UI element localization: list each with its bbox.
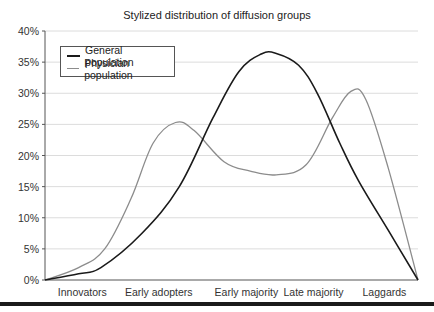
x-tick-label: Innovators (58, 286, 107, 298)
x-tick-label: Early adopters (125, 286, 193, 298)
x-tick-label: Late majority (284, 286, 345, 298)
y-tick-label: 15% (18, 181, 39, 193)
x-tick-labels: InnovatorsEarly adoptersEarly majorityLa… (58, 286, 407, 298)
x-tick-label: Laggards (363, 286, 407, 298)
y-tick-label: 25% (18, 118, 39, 130)
bottom-divider (0, 302, 434, 306)
general-swatch-icon (67, 55, 80, 57)
physician-swatch-icon (67, 68, 79, 69)
y-tick-label: 30% (18, 87, 39, 99)
y-tick-label: 10% (18, 212, 39, 224)
y-tick-labels: 0%5%10%15%20%25%30%35%40% (18, 25, 45, 286)
physician-population-line (45, 89, 418, 280)
legend: General population Physician population (60, 46, 175, 77)
y-tick-label: 20% (18, 150, 39, 162)
series-lines (45, 52, 418, 280)
legend-item-physician: Physician population (67, 62, 168, 75)
legend-label-physician: Physician population (84, 57, 168, 81)
y-tick-label: 40% (18, 25, 39, 37)
y-tick-label: 35% (18, 56, 39, 68)
y-tick-label: 0% (24, 274, 39, 286)
y-tick-label: 5% (24, 243, 39, 255)
x-tick-label: Early majority (215, 286, 279, 298)
